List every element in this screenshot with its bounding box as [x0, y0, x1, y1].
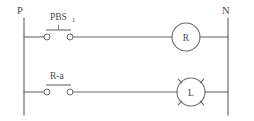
left-rail-label: P [17, 5, 23, 16]
relay-contact-r-a[interactable]: R-a [44, 71, 73, 95]
right-rail-label: N [222, 5, 230, 16]
ladder-diagram-svg: P N PBS 1 R [0, 0, 254, 121]
pbs1-label: PBS [50, 12, 67, 22]
indicator-lamp-l[interactable]: L [177, 78, 205, 106]
pushbutton-pbs1[interactable]: PBS 1 [44, 12, 75, 40]
relay-coil-r[interactable]: R [172, 23, 200, 51]
left-power-rail-group: P [17, 5, 24, 115]
indicator-lamp-l-label: L [188, 88, 194, 98]
right-neutral-rail-group: N [222, 5, 230, 115]
rung-2-group: R-a L [24, 71, 228, 106]
relay-coil-r-label: R [183, 33, 190, 43]
pbs1-terminal-right [67, 34, 73, 40]
pbs1-label-subscript: 1 [72, 16, 75, 23]
r-a-terminal-right [67, 89, 73, 95]
r-a-terminal-left [44, 89, 50, 95]
ladder-diagram-canvas: P N PBS 1 R [0, 0, 254, 121]
rung-1-group: PBS 1 R [24, 12, 228, 51]
r-a-label: R-a [50, 71, 65, 81]
pbs1-terminal-left [44, 34, 50, 40]
